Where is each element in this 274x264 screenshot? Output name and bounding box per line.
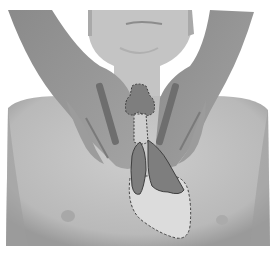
trachea-overlay xyxy=(134,114,148,144)
nipple-right xyxy=(216,215,228,225)
medical-illustration xyxy=(0,0,274,264)
nipple-left xyxy=(61,210,75,222)
